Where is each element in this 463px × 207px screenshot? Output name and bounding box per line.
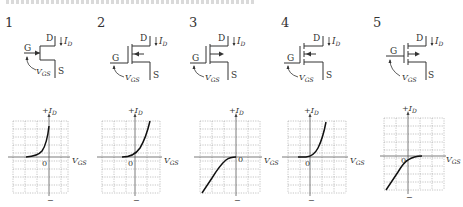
option-2[interactable]: 2 D ID G VGS S — [92, 0, 184, 207]
option-1[interactable]: 1 D ID G VGS S — [0, 0, 92, 207]
svg-text:−: − — [406, 193, 413, 202]
svg-text:0: 0 — [305, 159, 310, 168]
option-4[interactable]: 4 D ID G VGS S — [276, 0, 368, 207]
svg-text:−: − — [133, 196, 140, 205]
svg-text:+ID: +ID — [128, 106, 143, 116]
id-vgs-graph: +ID 0 VGS − — [368, 0, 463, 207]
svg-text:0: 0 — [401, 156, 406, 165]
svg-text:+ID: +ID — [402, 104, 417, 114]
id-vgs-graph: +ID 0 VGS − — [276, 0, 368, 207]
option-3[interactable]: 3 D ID G VGS S — [184, 0, 276, 207]
id-vgs-graph: +ID 0 VGS − — [92, 0, 184, 207]
svg-text:0: 0 — [42, 159, 47, 168]
option-5[interactable]: 5 D ID G VGS S — [368, 0, 460, 207]
svg-text:−: − — [308, 196, 315, 205]
svg-text:+ID: +ID — [229, 106, 244, 116]
svg-text:−: − — [47, 196, 54, 205]
id-vgs-graph: +ID 0 VGS − — [0, 0, 92, 207]
svg-text:VGS: VGS — [72, 156, 87, 166]
svg-text:0: 0 — [238, 155, 243, 164]
svg-text:VGS: VGS — [446, 155, 461, 165]
svg-text:−: − — [234, 196, 241, 205]
svg-text:0: 0 — [128, 159, 133, 168]
svg-text:+ID: +ID — [42, 106, 57, 116]
svg-text:VGS: VGS — [350, 156, 365, 166]
svg-text:VGS: VGS — [164, 156, 179, 166]
svg-text:+ID: +ID — [304, 106, 319, 116]
id-vgs-graph: +ID 0 VGS − — [184, 0, 276, 207]
